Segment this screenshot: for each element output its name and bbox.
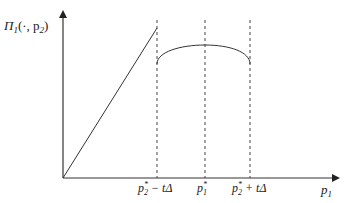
linear-profit-segment (63, 28, 157, 178)
x-axis-label: p1 (320, 182, 332, 199)
tick-label-p1-star: p*1 (196, 180, 207, 197)
y-axis-label: Π1(·, p2) (3, 18, 48, 35)
concave-profit-arc (157, 45, 250, 64)
tick-label-p2-plus-tdelta: p*2 + tΔ (231, 180, 266, 197)
tick-label-p2-minus-tdelta: p*2 − tΔ (137, 180, 172, 197)
profit-diagram: Π1(·, p2) p1 p*2 − tΔ p*1 p*2 + tΔ (0, 0, 355, 203)
